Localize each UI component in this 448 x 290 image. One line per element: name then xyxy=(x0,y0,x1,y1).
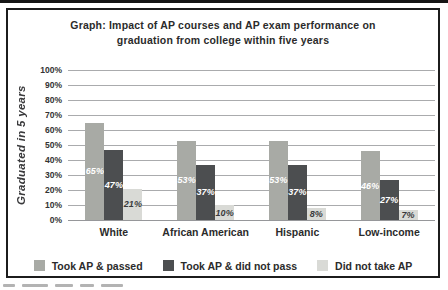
bar: 47% xyxy=(104,150,123,221)
chart-panel: Graph: Impact of AP courses and AP exam … xyxy=(6,8,440,278)
bar-groups: 65%47%21%53%37%10%53%37%8%46%27%7% xyxy=(68,70,435,220)
clipped-caption-mark xyxy=(22,284,48,287)
y-tick-label: 60% xyxy=(45,125,62,135)
legend-label: Took AP & did not pass xyxy=(181,260,297,272)
legend-item: Took AP & did not pass xyxy=(163,260,297,272)
clipped-caption-mark xyxy=(80,284,94,287)
bar-value-label: 46% xyxy=(361,181,379,191)
bar: 53% xyxy=(269,141,288,221)
legend-swatch xyxy=(317,260,328,271)
y-tick-label: 10% xyxy=(45,200,62,210)
legend-label: Did not take AP xyxy=(335,260,412,272)
bar-value-label: 27% xyxy=(380,195,398,205)
top-rule xyxy=(0,0,448,3)
chart-title-line1: Graph: Impact of AP courses and AP exam … xyxy=(8,18,438,33)
bar-group: 53%37%8% xyxy=(252,70,344,220)
x-category-label: Hispanic xyxy=(252,226,344,238)
bar-value-label: 21% xyxy=(124,199,142,209)
y-tick-label: 50% xyxy=(45,140,62,150)
bar: 7% xyxy=(399,210,418,221)
chart-title: Graph: Impact of AP courses and AP exam … xyxy=(8,18,438,48)
x-category-label: Low-income xyxy=(343,226,435,238)
y-axis-tick-labels: 100%90%80%70%60%50%40%30%20%10%0% xyxy=(22,70,62,220)
bar-value-label: 47% xyxy=(105,180,123,190)
x-axis-category-labels: WhiteAfrican AmericanHispanicLow-income xyxy=(68,226,435,238)
legend-item: Did not take AP xyxy=(317,260,412,272)
legend-swatch xyxy=(34,260,45,271)
y-tick-label: 90% xyxy=(45,80,62,90)
bar-value-label: 37% xyxy=(288,187,306,197)
legend: Took AP & passedTook AP & did not passDi… xyxy=(8,258,438,273)
bar-value-label: 7% xyxy=(402,210,415,220)
bar-value-label: 53% xyxy=(269,175,287,185)
bar-value-label: 37% xyxy=(197,187,215,197)
bar-value-label: 8% xyxy=(310,209,323,219)
clipped-caption-mark xyxy=(101,284,123,287)
x-category-label: White xyxy=(68,226,160,238)
y-tick-label: 80% xyxy=(45,95,62,105)
bar-group: 65%47%21% xyxy=(68,70,160,220)
page: { "page": { "background": "#ffffff", "to… xyxy=(0,0,448,290)
x-category-label: African American xyxy=(160,226,252,238)
plot-area: 65%47%21%53%37%10%53%37%8%46%27%7% xyxy=(68,70,435,220)
bar: 8% xyxy=(307,208,326,220)
y-tick-label: 0% xyxy=(50,215,62,225)
legend-label: Took AP & passed xyxy=(52,260,143,272)
y-tick-label: 100% xyxy=(40,65,62,75)
y-tick-label: 30% xyxy=(45,170,62,180)
bar-value-label: 53% xyxy=(178,175,196,185)
y-tick-label: 70% xyxy=(45,110,62,120)
chart-title-line2: graduation from college within five year… xyxy=(8,33,438,48)
bar: 46% xyxy=(361,151,380,220)
clipped-caption-mark xyxy=(3,284,15,287)
y-tick-label: 20% xyxy=(45,185,62,195)
bar: 21% xyxy=(123,189,142,221)
bar: 65% xyxy=(85,123,104,221)
bar-value-label: 65% xyxy=(86,166,104,176)
clipped-caption-fragment xyxy=(3,284,123,287)
bar-group: 53%37%10% xyxy=(160,70,252,220)
legend-item: Took AP & passed xyxy=(34,260,143,272)
bar-group: 46%27%7% xyxy=(343,70,435,220)
gridline xyxy=(68,220,435,221)
bar: 53% xyxy=(177,141,196,221)
bar: 27% xyxy=(380,180,399,221)
bar-value-label: 10% xyxy=(216,208,234,218)
legend-swatch xyxy=(163,260,174,271)
y-tick-label: 40% xyxy=(45,155,62,165)
bar: 37% xyxy=(288,165,307,221)
bar: 10% xyxy=(215,205,234,220)
bar: 37% xyxy=(196,165,215,221)
clipped-caption-mark xyxy=(55,284,73,287)
